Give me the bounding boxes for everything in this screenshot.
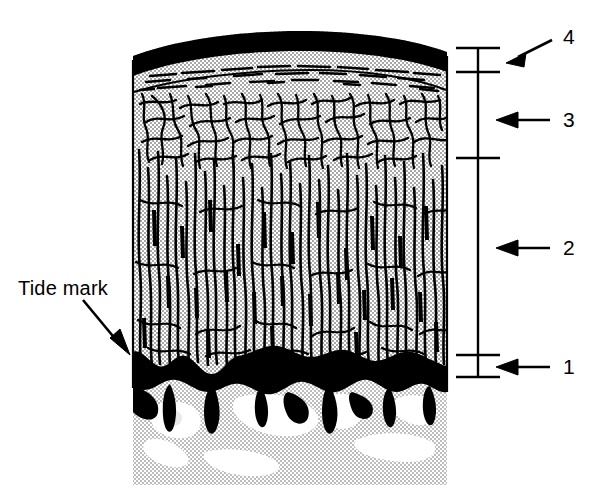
zone-label-4: 4	[563, 26, 575, 47]
tide-mark-arrow	[83, 300, 130, 355]
zone-label-2: 2	[563, 237, 575, 258]
tide-mark-callout	[0, 0, 602, 502]
tide-mark-label: Tide mark	[18, 278, 108, 298]
articular-cartilage-zone-diagram: Tide mark 4 3 2 1	[0, 0, 602, 502]
zone-label-3: 3	[563, 109, 575, 130]
zone-label-1: 1	[563, 356, 575, 377]
